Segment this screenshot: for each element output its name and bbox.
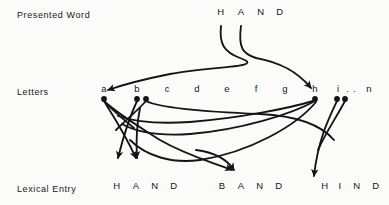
- lexical-entry-BAND-letter-1[interactable]: A: [238, 180, 245, 191]
- presented-word-letter-d-3[interactable]: D: [276, 6, 283, 17]
- presented-word-letter-n-2[interactable]: N: [257, 6, 264, 17]
- letter-node-dot-10[interactable]: .: [353, 83, 357, 94]
- row-label-presented-word: Presented Word: [17, 10, 90, 20]
- lexical-entry-BAND-letter-3[interactable]: D: [275, 180, 282, 191]
- word-to-letter-links: [108, 26, 311, 90]
- letter-node-f-5[interactable]: f: [255, 83, 258, 94]
- row-label-lexical-entry: Lexical Entry: [17, 184, 76, 194]
- lexical-entry-HIND-letter-3[interactable]: D: [372, 180, 379, 191]
- lexical-entry-BAND-letter-2[interactable]: N: [256, 180, 263, 191]
- letter-node-e-4[interactable]: e: [224, 83, 229, 94]
- lexical-entry-HIND-letter-2[interactable]: N: [353, 180, 360, 191]
- letter-to-lexical-links: [104, 101, 345, 176]
- row-label-letters: Letters: [17, 87, 49, 97]
- letter-node-c-2[interactable]: c: [165, 83, 170, 94]
- letter-node-n-11[interactable]: n: [366, 83, 371, 94]
- lexical-entry-HAND-letter-3[interactable]: D: [170, 180, 177, 191]
- letter-node-h-7[interactable]: h: [312, 83, 317, 94]
- lexical-entry-HAND-letter-0[interactable]: H: [113, 180, 120, 191]
- link-letter-i-to-left-trunk: [318, 101, 345, 150]
- letter-node-a-0[interactable]: a: [101, 83, 106, 94]
- letter-node-b-1[interactable]: b: [134, 83, 139, 94]
- link-word-H-to-letter-a: [108, 26, 247, 90]
- interactive-activation-figure: Presented Word Letters Lexical Entry HAN…: [0, 0, 389, 205]
- letter-node-d-3[interactable]: d: [194, 83, 199, 94]
- presented-word-letter-h-0[interactable]: H: [217, 6, 224, 17]
- link-cluster-to-HAND-A-2: [136, 108, 140, 158]
- connection-diagram: [0, 0, 389, 205]
- letter-node-i-8[interactable]: i: [337, 83, 339, 94]
- lexical-entry-HAND-letter-1[interactable]: A: [133, 180, 140, 191]
- letter-node-g-6[interactable]: g: [282, 83, 287, 94]
- letter-node-dot-9[interactable]: .: [346, 83, 350, 94]
- presented-word-letter-a-1[interactable]: A: [238, 6, 245, 17]
- lexical-entry-HIND-letter-0[interactable]: H: [321, 180, 328, 191]
- lexical-entry-HIND-letter-1[interactable]: I: [338, 180, 341, 191]
- lexical-entry-HAND-letter-2[interactable]: N: [151, 180, 158, 191]
- lexical-entry-BAND-letter-0[interactable]: B: [219, 180, 226, 191]
- link-word-A-to-letter-h: [240, 26, 311, 88]
- link-letter-h-trunk-lower: [130, 102, 316, 161]
